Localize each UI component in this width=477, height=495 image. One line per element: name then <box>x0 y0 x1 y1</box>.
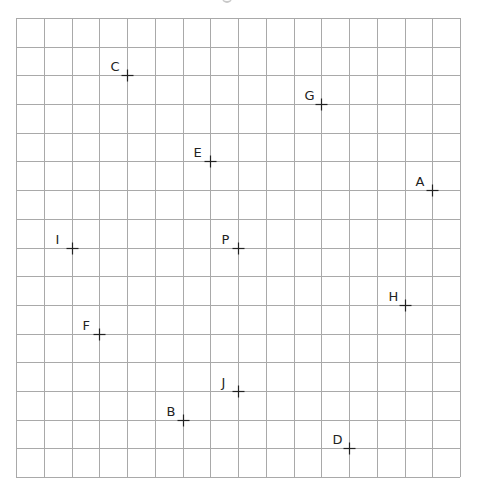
point-label: P <box>222 232 230 247</box>
point-label: D <box>333 432 343 447</box>
point-c: C <box>111 59 134 82</box>
cross-marker-icon <box>122 70 134 82</box>
cross-marker-icon <box>233 386 245 398</box>
cross-marker-icon <box>400 300 412 312</box>
point-b: B <box>167 404 190 427</box>
point-f: F <box>83 318 106 341</box>
cross-marker-icon <box>427 185 439 197</box>
coordinate-grid: CGEAIPHFJBD <box>0 0 477 495</box>
point-label: F <box>83 318 90 333</box>
point-p: P <box>222 232 245 255</box>
point-g: G <box>305 88 328 111</box>
cross-marker-icon <box>205 156 217 168</box>
point-label: C <box>111 59 120 74</box>
cross-marker-icon <box>94 329 106 341</box>
cross-marker-icon <box>67 243 79 255</box>
point-label: E <box>194 145 202 160</box>
point-d: D <box>333 432 356 455</box>
point-i: I <box>56 232 79 255</box>
point-a: A <box>416 174 439 197</box>
point-h: H <box>389 289 412 312</box>
point-e: E <box>194 145 217 168</box>
grid-diagram: CGEAIPHFJBD <box>0 0 477 495</box>
cross-marker-icon <box>178 415 190 427</box>
cross-marker-icon <box>233 243 245 255</box>
point-label: J <box>221 375 226 390</box>
point-label: I <box>56 232 60 247</box>
point-j: J <box>221 375 245 398</box>
point-label: B <box>167 404 176 419</box>
cross-marker-icon <box>344 443 356 455</box>
point-label: A <box>416 174 425 189</box>
point-label: G <box>305 88 315 103</box>
cross-marker-icon <box>316 99 328 111</box>
point-label: H <box>389 289 399 304</box>
grid-points: CGEAIPHFJBD <box>56 59 439 455</box>
